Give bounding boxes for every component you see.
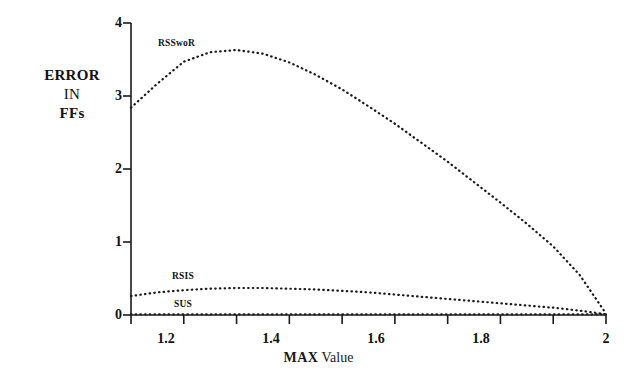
x-axis-ticks — [131, 315, 606, 324]
axes — [131, 23, 606, 315]
series-curve-rsswor — [131, 50, 606, 314]
chart-plot-area — [0, 0, 637, 379]
y-axis-ticks — [123, 23, 131, 315]
chart-figure: ERROR IN FFs MAX Value 4 3 2 1 0 1.2 1.4… — [0, 0, 637, 379]
series-curve-rsis — [131, 288, 606, 314]
data-series-group — [131, 50, 606, 314]
